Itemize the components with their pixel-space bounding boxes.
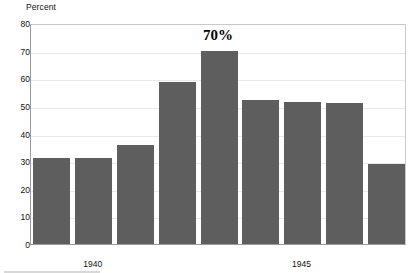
bar [368, 164, 405, 244]
bar-chart: Percent 80706050403020100 70% 19401945 [0, 0, 414, 273]
bar [33, 158, 70, 244]
value-annotation-70-percent: 70% [203, 27, 233, 44]
bar [284, 102, 321, 244]
bar [242, 100, 279, 244]
y-tick-label: 40 [4, 130, 30, 140]
bar [75, 158, 112, 244]
y-tick-label: 70 [4, 47, 30, 57]
x-tick-label: 1940 [83, 259, 102, 269]
bars-group [31, 25, 405, 244]
bar [117, 145, 154, 244]
y-tick-label: 50 [4, 102, 30, 112]
y-tick-label: 30 [4, 157, 30, 167]
y-tick-label: 10 [4, 212, 30, 222]
y-tick-label: 80 [4, 19, 30, 29]
bar [326, 103, 363, 244]
bar [159, 82, 196, 244]
y-tick-label: 0 [4, 240, 30, 250]
y-tick-label: 20 [4, 185, 30, 195]
x-tick-label: 1945 [292, 259, 311, 269]
plot-area [30, 24, 406, 245]
y-axis-title: Percent [26, 2, 56, 12]
y-tick-label: 60 [4, 74, 30, 84]
bar [201, 51, 238, 244]
